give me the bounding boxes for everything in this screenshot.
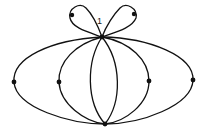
vertex-top [100, 35, 105, 40]
edge-top-right-inner [102, 37, 149, 81]
loop-right [102, 6, 136, 37]
edge-left-inner-bottom [59, 82, 105, 124]
vertex-right-outer [191, 78, 196, 83]
edge-top-left-inner [59, 37, 102, 82]
vertex-loop-right [132, 12, 136, 16]
vertex-left-outer [12, 80, 17, 85]
edge-center-left [90, 37, 105, 124]
edge-right-inner-bottom [105, 81, 149, 124]
edge-top-right-outer [102, 37, 193, 80]
edge-center-right [102, 37, 117, 124]
vertex-left-inner [57, 80, 62, 85]
vertex-loop-left [70, 13, 74, 17]
graph-diagram: 1 [0, 0, 206, 130]
vertex-bottom [103, 122, 108, 127]
vertex-label: 1 [97, 16, 102, 26]
edge-top-left-outer [14, 37, 102, 82]
vertex-right-inner [147, 79, 152, 84]
